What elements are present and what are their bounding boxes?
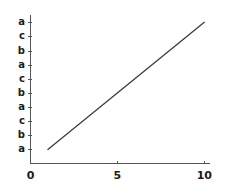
y-tick-label: c [6,31,25,41]
y-tick-label: c [6,116,25,126]
x-tick-label: 5 [97,170,137,181]
data-series-group [48,22,204,149]
y-tick-label: a [6,102,25,112]
y-tick-label: b [6,130,25,140]
x-tick-label: 0 [11,170,51,181]
chart-figure: abcabcabca 0510 [0,0,225,195]
x-tick-label: 10 [184,170,224,181]
chart-canvas [0,0,225,195]
y-tick-label: c [6,74,25,84]
y-tick-label: a [6,144,25,154]
y-tick-label: b [6,46,25,56]
y-tick-label: a [6,17,25,27]
y-tick-label: a [6,60,25,70]
data-line [48,22,204,149]
y-tick-label: b [6,88,25,98]
